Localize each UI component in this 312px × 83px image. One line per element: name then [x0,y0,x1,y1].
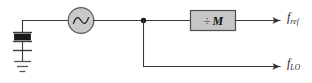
output-label-flo: fLO [287,57,300,69]
crystal-branch [13,21,32,62]
divider-variable: M [212,14,223,29]
output-label-fref: fref [287,11,299,23]
flo-subscript: LO [290,63,300,72]
schematic-canvas [0,0,312,83]
divider-operator: ÷ [204,14,211,29]
crystal-body [15,34,31,40]
oscillator-source [68,8,94,34]
ground-symbol [14,62,31,72]
divider-block-label: ÷ M [191,12,236,31]
circuit-diagram: ÷ M fref fLO [0,0,312,83]
fref-subscript: ref [290,17,299,26]
